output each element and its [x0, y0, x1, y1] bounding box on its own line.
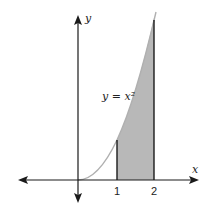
y-axis-label: y: [85, 13, 91, 24]
area-under-curve-diagram: [0, 0, 208, 219]
x-tick-2: 2: [151, 186, 157, 197]
function-label: y = x²: [102, 91, 135, 102]
x-tick-1: 1: [114, 186, 120, 197]
x-axis-label: x: [192, 164, 198, 175]
